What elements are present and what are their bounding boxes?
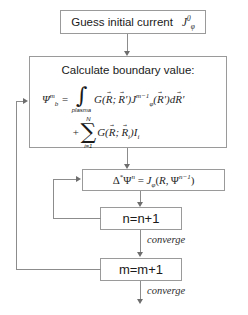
boundary-value-equation: Ψmb = ∫ plasma G(R; R′)Jm−1φ(R′)dR′ + N … (30, 78, 226, 146)
equation-line-2: + N ∑ i=1 G(R; Ri)Ii (72, 116, 139, 149)
edge-inner-loop-segment-top (53, 179, 77, 180)
arrowhead-inner-loop-to-gs (76, 176, 81, 182)
node-guess-initial-current[interactable]: Guess initial current J0φ (60, 10, 206, 34)
psi-boundary-term: Ψmb (42, 93, 58, 105)
sum-lower-limit: i=1 (84, 143, 92, 149)
edge-inner-loop-segment-left (53, 218, 101, 219)
increment-n-label: n=n+1 (123, 211, 160, 226)
grad-shafranov-expression: Δ*Ψn = Jφ(R, Ψn−1) (113, 174, 195, 186)
calculate-headline: Calculate boundary value: (62, 62, 195, 78)
coil-green-term: G(R; Ri)Ii (97, 126, 139, 138)
summation-operator: N ∑ i=1 (80, 116, 96, 149)
integral-glyph: ∫ (76, 86, 87, 107)
sigma-glyph: ∑ (80, 122, 96, 143)
node-grad-shafranov-equation[interactable]: Δ*Ψn = Jφ(R, Ψn−1) (82, 169, 225, 191)
edge-outer-loop-segment-vertical (16, 101, 17, 270)
node-increment-m[interactable]: m=m+1 (100, 258, 182, 281)
plus-sign: + (72, 126, 79, 138)
equation-line-1: Ψmb = ∫ plasma G(R; R′)Jm−1φ(R′)dR′ (42, 86, 184, 113)
node-calculate-boundary-value[interactable]: Calculate boundary value: Ψmb = ∫ plasma… (29, 56, 227, 148)
arrowhead-gs-to-increment-n (137, 202, 143, 207)
guess-current-symbol: J0φ (182, 16, 195, 28)
arrowhead-increment-n-to-increment-m (137, 252, 143, 257)
edge-guess-to-calculate (127, 34, 128, 52)
edge-outer-loop-segment-bottom (16, 269, 101, 270)
integral-operator: ∫ plasma (72, 86, 91, 113)
flowchart-canvas: Guess initial current J0φ Calculate boun… (0, 0, 248, 315)
equals-sign: = (61, 93, 68, 105)
integral-domain-label: plasma (72, 107, 91, 113)
edge-label-converge-outer: converge (147, 285, 185, 296)
edge-gs-to-increment-n (140, 191, 141, 202)
green-function-integrand: G(R; R′)Jm−1φ(R′)dR′ (94, 93, 184, 105)
edge-calculate-to-gs (127, 148, 128, 164)
guess-label: Guess initial current (71, 16, 173, 28)
edge-increment-n-to-increment-m (140, 230, 141, 253)
node-increment-n[interactable]: n=n+1 (100, 207, 182, 230)
arrowhead-guess-to-calculate (124, 51, 130, 56)
arrowhead-calculate-to-gs (124, 164, 130, 169)
arrowhead-outer-loop-to-calculate (23, 98, 28, 104)
arrowhead-exit (137, 299, 143, 304)
edge-label-converge-inner: converge (147, 234, 185, 245)
edge-inner-loop-segment-vertical (53, 179, 54, 219)
increment-m-label: m=m+1 (119, 262, 163, 277)
